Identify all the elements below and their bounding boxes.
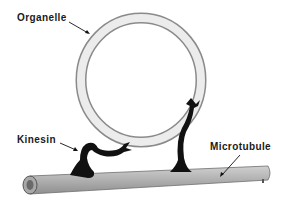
microtubule	[23, 166, 270, 194]
label-microtubule: Microtubule	[210, 141, 271, 152]
label-kinesin: Kinesin	[17, 134, 56, 145]
kinesin-transport-illustration	[0, 0, 290, 212]
label-organelle: Organelle	[17, 12, 67, 23]
organelle-ring	[81, 18, 201, 142]
